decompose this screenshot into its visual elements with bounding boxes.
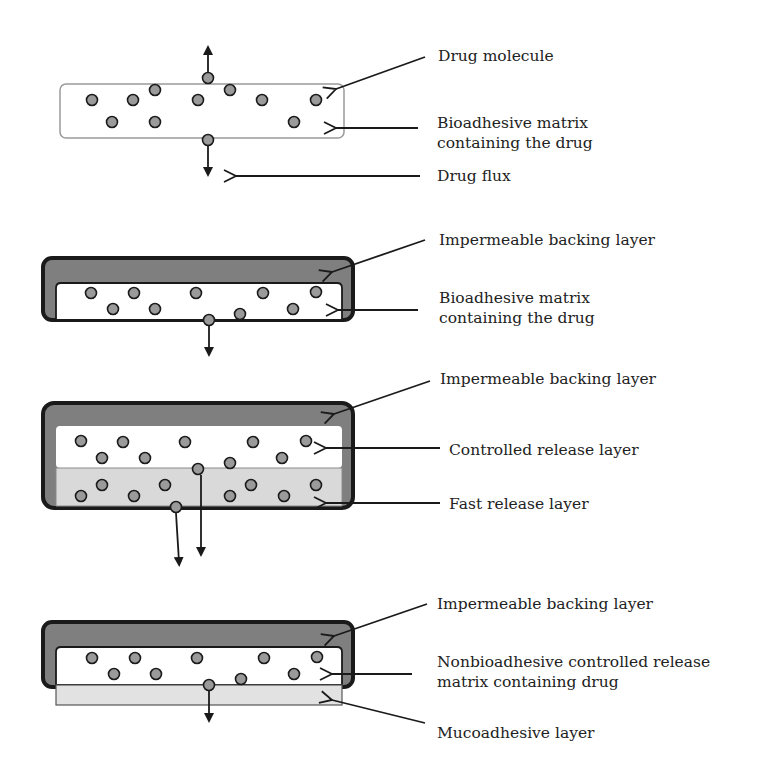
label-nonbioadhesive-matrix: Nonbioadhesive controlled release matrix… — [437, 652, 710, 692]
label-line-2: matrix containing drug — [437, 672, 710, 692]
mucoadhesive-layer — [56, 685, 342, 705]
label-impermeable-backing-layer: Impermeable backing layer — [439, 230, 655, 250]
pointer-backing-layer — [332, 240, 425, 272]
bioadhesive-matrix — [60, 84, 344, 138]
label-line-1: Bioadhesive matrix — [439, 288, 595, 308]
drug-flux-fast-arrow — [176, 513, 179, 562]
label-line-1: Nonbioadhesive controlled release — [437, 652, 710, 672]
panel-bilayer-release — [43, 381, 440, 562]
pointer-backing-layer — [334, 381, 430, 414]
label-line-2: containing the drug — [437, 133, 593, 153]
label-impermeable-backing-layer: Impermeable backing layer — [440, 369, 656, 389]
panel-monolithic-matrix — [60, 50, 425, 176]
label-drug-flux: Drug flux — [437, 166, 511, 186]
label-line-2: containing the drug — [439, 308, 595, 328]
pointer-backing-layer — [334, 604, 427, 636]
label-line-1: Bioadhesive matrix — [437, 113, 593, 133]
pointer-mucoadhesive-layer — [332, 700, 425, 723]
panel-backed-matrix — [43, 240, 425, 352]
label-mucoadhesive-layer: Mucoadhesive layer — [437, 723, 595, 743]
label-controlled-release-layer: Controlled release layer — [449, 440, 639, 460]
pointer-drug-molecule — [336, 57, 425, 89]
label-drug-molecule: Drug molecule — [438, 46, 554, 66]
panel-mucoadhesive-bilayer — [43, 604, 427, 723]
label-bioadhesive-matrix: Bioadhesive matrix containing the drug — [439, 288, 595, 328]
label-impermeable-backing-layer: Impermeable backing layer — [437, 594, 653, 614]
label-bioadhesive-matrix: Bioadhesive matrix containing the drug — [437, 113, 593, 153]
label-fast-release-layer: Fast release layer — [449, 494, 589, 514]
